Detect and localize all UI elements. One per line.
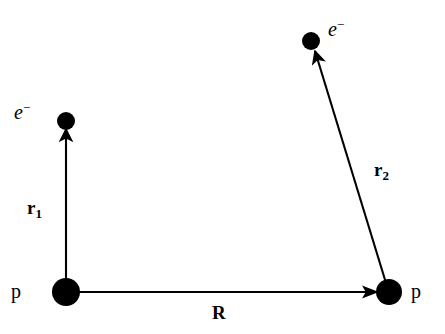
- proton-2-symbol: p: [411, 280, 421, 302]
- particle-electron-2: [302, 32, 320, 50]
- electron-2-symbol: e: [328, 18, 337, 40]
- electron-1-charge: −: [23, 100, 30, 115]
- label-vector-r1: r1: [27, 198, 42, 220]
- particle-proton-1: [52, 278, 80, 306]
- vector-r1-subscript: 1: [35, 206, 42, 221]
- particle-proton-2: [376, 279, 402, 305]
- label-electron-2: e−: [328, 18, 344, 39]
- electron-2-charge: −: [337, 17, 344, 32]
- label-proton-2: p: [411, 281, 421, 301]
- label-vector-R: R: [212, 303, 226, 325]
- label-vector-r2: r2: [374, 160, 389, 182]
- vector-R-symbol: R: [212, 302, 226, 323]
- proton-1-symbol: p: [11, 280, 21, 302]
- particle-electron-1: [57, 112, 75, 130]
- label-electron-1: e−: [14, 101, 30, 122]
- vector-r2-subscript: 2: [382, 168, 389, 183]
- electron-1-symbol: e: [14, 101, 23, 123]
- physics-vector-diagram: e− e− p p r1 r2 R: [0, 0, 445, 334]
- label-proton-1: p: [11, 281, 21, 301]
